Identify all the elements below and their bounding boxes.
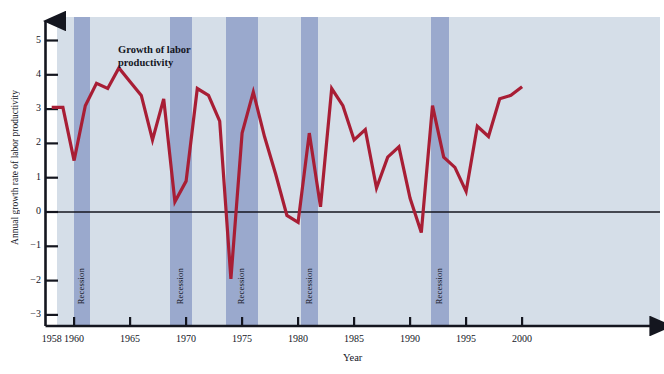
- x-tick-label: 1960: [64, 333, 84, 344]
- x-tick-label: 1975: [232, 333, 252, 344]
- series-annotation: Growth of labor productivity: [118, 44, 191, 69]
- y-tick-label: −3: [19, 308, 41, 319]
- series-annotation-line2: productivity: [118, 57, 191, 70]
- x-tick-label: 2000: [512, 333, 532, 344]
- y-tick-label: 4: [19, 68, 41, 79]
- y-tick-label: 2: [19, 136, 41, 147]
- x-tick-label: 1965: [120, 333, 140, 344]
- x-tick-label: 1970: [176, 333, 196, 344]
- y-tick-label: 5: [19, 34, 41, 45]
- x-tick-label: 1980: [288, 333, 308, 344]
- series-line-growth-of-labor-productivity: [52, 68, 522, 279]
- chart-svg: [0, 0, 664, 374]
- y-tick-label: −1: [19, 239, 41, 250]
- chart-container: RecessionRecessionRecessionRecessionRece…: [0, 0, 664, 374]
- x-axis-title: Year: [343, 352, 362, 363]
- y-tick-label: 1: [19, 171, 41, 182]
- x-tick-label: 1995: [456, 333, 476, 344]
- ticks-layer: [46, 41, 522, 327]
- y-tick-label: 0: [19, 205, 41, 216]
- x-tick-label: 1990: [400, 333, 420, 344]
- x-tick-label: 1958: [42, 333, 62, 344]
- y-tick-label: 3: [19, 102, 41, 113]
- y-axis-title: Annual growth rate of labor productivity: [10, 90, 20, 245]
- series-annotation-line1: Growth of labor: [118, 44, 191, 57]
- x-tick-label: 1985: [344, 333, 364, 344]
- y-tick-label: −2: [19, 274, 41, 285]
